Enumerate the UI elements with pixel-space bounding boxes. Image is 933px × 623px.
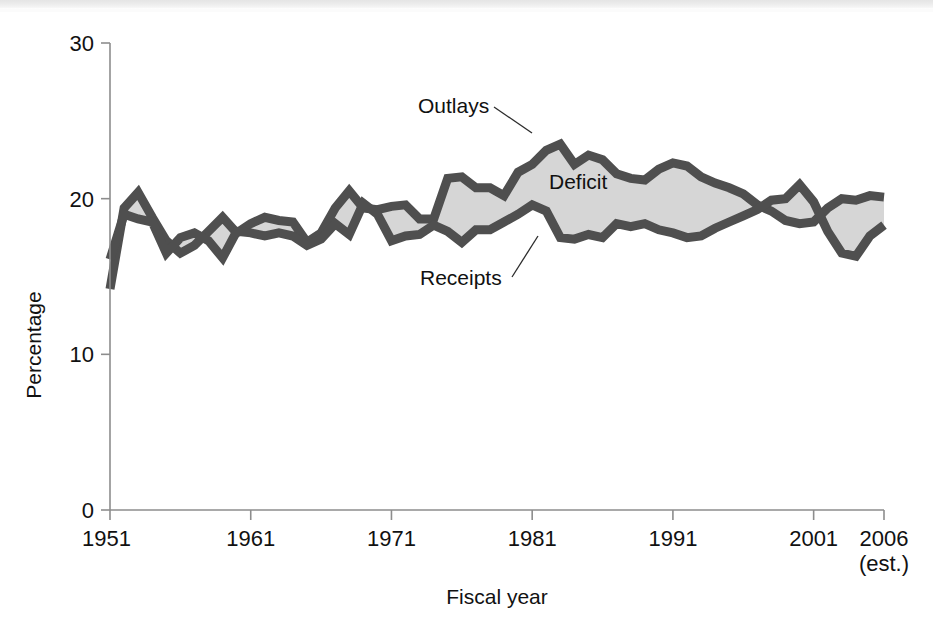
y-axis-tick-label: 20 xyxy=(70,187,94,212)
receipts-leader-line xyxy=(512,236,538,277)
y-axis-tick-label: 30 xyxy=(70,31,94,56)
y-axis-title: Percentage xyxy=(22,291,45,398)
x-axis-tick-label: 1961 xyxy=(226,526,275,551)
receipts-annotation-label: Receipts xyxy=(420,266,502,289)
y-axis: 0102030 Percentage xyxy=(22,31,110,523)
x-axis-tick-labels: 1951196119711981199120012006 xyxy=(82,526,908,551)
y-axis-tick-labels: 0102030 xyxy=(70,31,94,523)
x-axis-tick-label: 1951 xyxy=(82,526,131,551)
outlays-annotation-label: Outlays xyxy=(418,94,489,117)
x-axis-tick-label: 1971 xyxy=(367,526,416,551)
x-axis-tick-label: 1981 xyxy=(508,526,557,551)
y-axis-tick-label: 10 xyxy=(70,342,94,367)
x-axis-est-sublabel: (est.) xyxy=(859,551,909,576)
x-axis-tick-label: 2001 xyxy=(789,526,838,551)
x-axis-tick-label: 2006 xyxy=(860,526,909,551)
budget-outlays-receipts-chart: 0102030 Percentage 195119611971198119912… xyxy=(0,0,933,623)
outlays-leader-line xyxy=(494,107,532,133)
x-axis-ticks xyxy=(110,510,884,520)
x-axis-tick-label: 1991 xyxy=(648,526,697,551)
deficit-annotation-label: Deficit xyxy=(549,170,608,193)
x-axis: 1951196119711981199120012006 (est.) Fisc… xyxy=(82,510,909,608)
x-axis-title: Fiscal year xyxy=(446,585,548,608)
y-axis-tick-label: 0 xyxy=(82,498,94,523)
figure-container: 0102030 Percentage 195119611971198119912… xyxy=(0,0,933,623)
